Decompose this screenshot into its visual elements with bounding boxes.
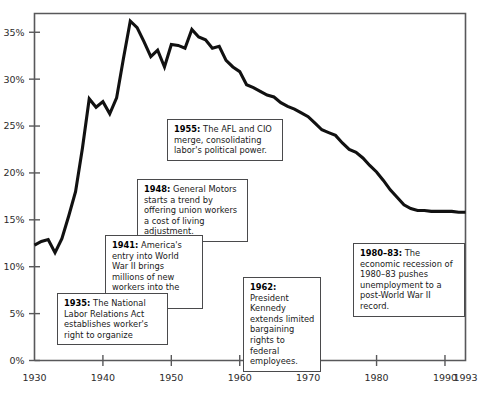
y-tick-label: 25%: [3, 120, 24, 131]
union-membership-chart: 0%5%10%15%20%25%30%35% 19301940195019601…: [0, 0, 492, 399]
annotation-1962: 1962: President Kennedy extends limited …: [243, 277, 321, 372]
y-tick-label: 0%: [9, 355, 24, 366]
annotation-1935: 1935: The National Labor Relations Act e…: [57, 293, 168, 345]
annotation-1962-year: 1962:: [250, 282, 276, 292]
y-tick-label: 5%: [9, 308, 24, 319]
x-tick-label: 1960: [228, 372, 252, 383]
x-tick-label: 1940: [91, 372, 115, 383]
annotation-1955: 1955: The AFL and CIO merge, consolidati…: [167, 119, 283, 161]
y-axis-tick-labels: 0%5%10%15%20%25%30%35%: [3, 27, 24, 366]
annotation-1980-year: 1980–83:: [360, 248, 402, 258]
x-tick-label: 1970: [296, 372, 320, 383]
y-tick-label: 35%: [3, 27, 24, 38]
y-tick-label: 15%: [3, 214, 24, 225]
annotation-1948-year: 1948:: [144, 184, 170, 194]
x-tick-label: 1950: [159, 372, 183, 383]
x-tick-label: 1930: [22, 372, 46, 383]
x-axis-tick-labels: 19301940195019601970198019901993: [22, 372, 477, 383]
annotation-1980: 1980–83: The economic recession of 1980–…: [353, 243, 465, 317]
y-tick-label: 20%: [3, 167, 24, 178]
annotation-1955-year: 1955:: [174, 124, 200, 134]
y-tick-label: 10%: [3, 261, 24, 272]
annotation-1935-year: 1935:: [64, 298, 90, 308]
annotation-1941-year: 1941:: [112, 240, 138, 250]
annotation-1948: 1948: General Motors starts a trend by o…: [137, 179, 248, 242]
annotation-1962-text: President Kennedy extends limited bargai…: [250, 293, 314, 367]
x-tick-label: 1993: [453, 372, 477, 383]
x-tick-label: 1980: [364, 372, 388, 383]
y-tick-label: 30%: [3, 74, 24, 85]
